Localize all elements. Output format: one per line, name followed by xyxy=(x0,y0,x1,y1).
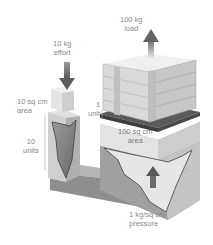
large-area-label: 100 sq cm area xyxy=(118,128,153,145)
small-distance-label: 10 units xyxy=(23,138,39,155)
pressure-label: 1 kg/sq cm pressure xyxy=(129,211,165,228)
small-area-label: 10 sq cm area xyxy=(17,98,47,115)
large-distance-label: 1 unit xyxy=(88,101,100,118)
small-piston xyxy=(51,87,74,112)
hydraulic-press-diagram xyxy=(0,0,213,245)
small-cylinder xyxy=(48,110,80,182)
effort-arrow-icon xyxy=(59,62,75,90)
load-arrow-icon xyxy=(143,29,159,58)
crate-load xyxy=(103,54,196,122)
effort-label: 10 kg effort xyxy=(53,40,71,57)
load-label: 100 kg load xyxy=(120,16,143,33)
